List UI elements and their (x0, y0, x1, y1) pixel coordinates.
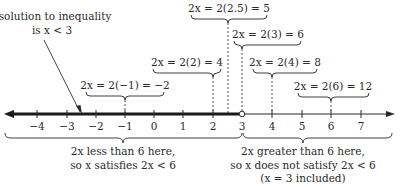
region-left: 2x less than 6 here, so x satisfies 2x <… (5, 133, 242, 171)
brace (234, 41, 301, 49)
left-arrow-icon (4, 110, 14, 118)
region-right-line1: 2x greater than 6 here, (241, 145, 365, 157)
tick-label: 3 (239, 120, 246, 132)
brace (5, 133, 242, 143)
evaluation-label: 2x = 2(2.5) = 5 (188, 2, 270, 14)
evaluation-label: 2x = 2(−1) = −2 (80, 79, 169, 91)
region-right-line2: so x does not satisfy 2x < 6 (230, 159, 376, 171)
evaluation-label: 2x = 2(4) = 8 (249, 56, 321, 68)
tick-label: −4 (29, 120, 45, 132)
region-left-line1: 2x less than 6 here, (71, 145, 176, 157)
evaluation-label: 2x = 2(3) = 6 (232, 28, 304, 40)
open-circle-endpoint-icon (239, 111, 245, 117)
evaluation-neg1: 2x = 2(−1) = −2 (80, 79, 169, 113)
number-line-diagram: solution to inequality is x < 3 2x = 2(2… (0, 0, 401, 187)
tick-label: 5 (299, 120, 306, 132)
evaluation-three: 2x = 2(3) = 6 (232, 28, 304, 111)
right-arrow-icon (386, 111, 395, 117)
brace (243, 133, 392, 143)
tick-label: 1 (180, 120, 187, 132)
evaluation-label: 2x = 2(2) = 4 (151, 56, 223, 68)
tick-label: 0 (151, 120, 158, 132)
evaluation-label: 2x = 2(6) = 12 (294, 80, 372, 92)
tick-label: −3 (59, 120, 74, 132)
brace (298, 93, 369, 101)
tick-label: 7 (358, 120, 365, 132)
brace (253, 69, 317, 77)
region-right-line3: (x = 3 included) (260, 172, 345, 184)
region-right: 2x greater than 6 here, so x does not sa… (230, 133, 392, 184)
tick-label: 4 (269, 120, 276, 132)
pointer-line (44, 40, 80, 112)
evaluation-six: 2x = 2(6) = 12 (294, 80, 372, 113)
solution-annotation-line2: is x < 3 (32, 24, 72, 36)
tick-label: −1 (117, 120, 132, 132)
number-line: −4−3−2−101234567 (4, 110, 395, 132)
tick-label: −2 (88, 120, 103, 132)
brace (86, 92, 164, 100)
region-left-line2: so x satisfies 2x < 6 (70, 159, 176, 171)
solution-annotation: solution to inequality is x < 3 (0, 10, 111, 114)
tick-label: 2 (210, 120, 217, 132)
brace (191, 15, 267, 23)
solution-annotation-line1: solution to inequality (0, 10, 111, 22)
tick-label: 6 (328, 120, 335, 132)
brace (153, 69, 221, 77)
